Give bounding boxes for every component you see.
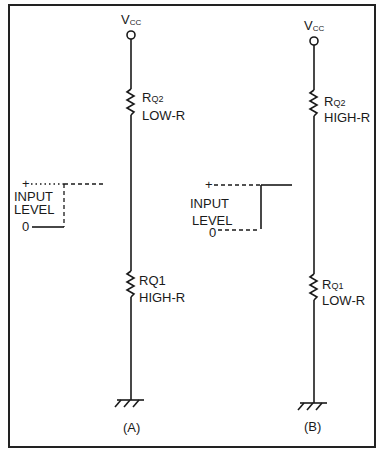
input-line2-a: LEVEL xyxy=(14,202,54,217)
resistor-icon-rq2-b xyxy=(310,90,317,116)
caption-a: (A) xyxy=(123,420,140,435)
caption-b: (B) xyxy=(304,419,321,434)
panel-a: VCC RQ2 LOW-R RQ1 HIGH-R (A) + xyxy=(14,12,185,435)
rq2-value-a: LOW-R xyxy=(142,108,185,123)
vcc-label-b: VCC xyxy=(304,18,324,33)
resistor-icon-rq2-a xyxy=(127,89,134,115)
vcc-label-a: VCC xyxy=(121,12,141,27)
input-line1-b: INPUT xyxy=(190,196,229,211)
rq1-value-a: HIGH-R xyxy=(139,290,185,305)
vcc-terminal-icon-a xyxy=(127,31,135,39)
input-zero-a: 0 xyxy=(22,219,29,234)
circuit-diagram: VCC RQ2 LOW-R RQ1 HIGH-R (A) + xyxy=(0,0,384,455)
input-level-waveform-b: + INPUT LEVEL 0 xyxy=(190,177,292,240)
ground-icon-a xyxy=(115,400,144,407)
rq1-name-a: RQ1 xyxy=(139,273,166,288)
rq2-name-b: RQ2 xyxy=(324,94,345,109)
rq1-value-b: LOW-R xyxy=(322,293,365,308)
vcc-terminal-icon-b xyxy=(310,37,318,45)
ground-icon-b xyxy=(298,403,327,410)
resistor-icon-rq1-a xyxy=(127,271,134,297)
panel-b: VCC RQ2 HIGH-R RQ1 LOW-R (B) + INPUT xyxy=(190,18,370,434)
rq2-value-b: HIGH-R xyxy=(324,110,370,125)
rq1-name-b: RQ1 xyxy=(322,277,343,292)
rq2-name-a: RQ2 xyxy=(142,90,163,105)
input-zero-b: 0 xyxy=(209,225,216,240)
resistor-icon-rq1-b xyxy=(310,274,317,300)
input-plus-b: + xyxy=(205,177,213,192)
input-level-waveform-a: + INPUT LEVEL 0 xyxy=(14,176,106,234)
